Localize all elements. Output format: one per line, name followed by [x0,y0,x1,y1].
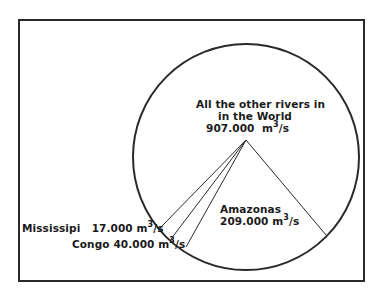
label-mississipi-value: 17.000 [92,222,133,234]
label-amazonas: Amazonas 209.000 m3/s [220,203,299,227]
label-other-rivers-line2: in the World [196,110,314,122]
label-mississipi: Mississipi 17.000 m3/s [22,222,164,234]
label-congo-name: Congo [72,238,110,250]
label-other-rivers-line1: All the other rivers in [196,98,314,110]
label-other-rivers: All the other rivers in in the World 907… [196,98,314,134]
pie-chart [0,0,384,300]
pie-circle [133,44,359,270]
label-congo: Congo 40.000 m3/s [72,238,185,250]
label-congo-value: 40.000 [113,238,154,250]
label-mississipi-name: Mississipi [22,222,80,234]
label-amazonas-value: 209.000 m3/s [220,215,299,227]
label-other-rivers-value: 907.000 m3/s [196,122,314,134]
